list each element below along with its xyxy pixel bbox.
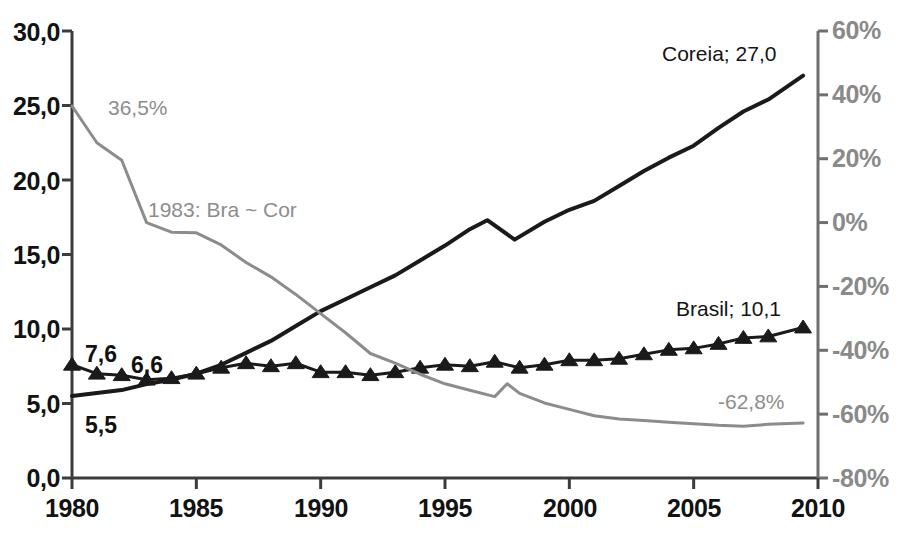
series-marker-brasil-9 [287,356,304,369]
y-axis-tick-label-3: 15,0 [0,241,60,270]
y-axis-tick-label-0: 0,0 [0,464,60,493]
y-axis-tick-label-4: 20,0 [0,167,60,196]
y-axis-tick-label-6: 30,0 [0,18,60,47]
x-axis-tick-label-6: 2010 [758,494,878,523]
chart-container: 0,0 5,0 10,0 15,0 20,0 25,0 30,0 -80% -6… [0,0,901,546]
y2-axis-tick-label-2: -40% [832,336,889,365]
annotation-brasil-min-value: 6,6 [131,352,163,379]
annotation-brasil-label: Brasil; 10,1 [676,297,781,321]
series-marker-brasil-17 [486,354,503,367]
annotation-start-percent: 36,5% [108,96,168,120]
x-axis-tick-label-5: 2005 [634,494,754,523]
y-axis-tick-label-2: 10,0 [0,315,60,344]
y2-axis-tick-label-3: -20% [832,272,889,301]
series-group [64,76,812,427]
series-marker-brasil-0 [64,357,81,370]
series-marker-brasil-29 [795,320,812,333]
x-axis-tick-label-1: 1985 [136,494,256,523]
x-axis-tick-label-0: 1980 [12,494,132,523]
y2-axis-tick-label-4: 0% [832,208,867,237]
annotation-coreia-label: Coreia; 27,0 [662,42,776,66]
y2-axis-tick-label-1: -60% [832,400,889,429]
axes-group [62,31,828,489]
annotation-end-percent: -62,8% [718,390,785,414]
y2-axis-tick-label-0: -80% [832,464,889,493]
annotation-brasil-start-value: 7,6 [85,341,117,368]
y-axis-tick-label-5: 25,0 [0,92,60,121]
y2-axis-tick-label-6: 40% [832,80,881,109]
y-axis-tick-label-1: 5,0 [0,390,60,419]
x-axis-tick-label-4: 2000 [510,494,630,523]
annotation-coreia-start-value: 5,5 [85,412,117,439]
y2-axis-tick-label-7: 60% [832,16,881,45]
chart-plot-svg [0,0,901,546]
x-axis-tick-label-2: 1990 [261,494,381,523]
x-axis-tick-label-3: 1995 [385,494,505,523]
annotation-crossover-note: 1983: Bra ~ Cor [148,198,297,222]
y2-axis-tick-label-5: 20% [832,144,881,173]
